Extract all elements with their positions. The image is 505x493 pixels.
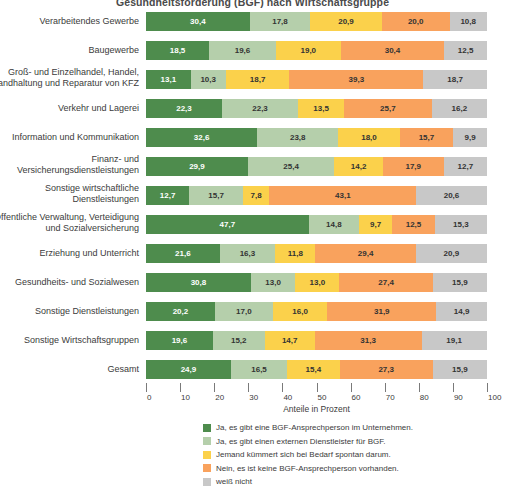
axis-tick (487, 383, 488, 392)
bar-segment: 12,5 (444, 41, 487, 60)
axis-tick (146, 383, 147, 392)
category-label: Verarbeitendes Gewerbe (0, 16, 139, 27)
category-label-line: Sonstige Dienstleistungen (0, 306, 139, 317)
category-label-line: und Sozialversicherung (0, 223, 139, 234)
category-label: Öffentliche Verwaltung, Verteidigungund … (0, 212, 139, 234)
bar-segment: 13,1 (146, 70, 191, 89)
bar-row: Gesundheits- und Sozialwesen30,813,013,0… (146, 271, 487, 300)
bar-segment: 47,7 (146, 215, 309, 234)
legend-item: Ja, es gibt einen externen Dienstleister… (203, 435, 413, 449)
legend-swatch (203, 451, 211, 459)
bar-row: Groß- und Einzelhandel, Handel,Instandha… (146, 68, 487, 97)
bar-segment: 17,9 (383, 157, 444, 176)
category-label: Groß- und Einzelhandel, Handel,Instandha… (0, 67, 139, 89)
category-label-line: Gesundheits- und Sozialwesen (0, 277, 139, 288)
category-label: Information und Kommunikation (0, 132, 139, 143)
category-label-line: Verarbeitendes Gewerbe (0, 16, 139, 27)
bar-segment: 17,0 (215, 302, 273, 321)
bar-segment: 17,8 (250, 12, 311, 31)
bar-segment: 9,7 (359, 215, 392, 234)
axis-tick (282, 383, 283, 392)
stacked-bar: 24,916,515,427,315,9 (146, 360, 487, 379)
bar-segment: 15,9 (433, 273, 487, 292)
bar-segment: 18,7 (226, 70, 290, 89)
bar-segment: 30,8 (146, 273, 251, 292)
bar-segment: 11,8 (275, 244, 315, 263)
bar-segment: 12,5 (392, 215, 435, 234)
legend-label: Jemand kümmert sich bei Bedarf spontan d… (216, 450, 391, 459)
bar-segment: 15,7 (189, 186, 243, 205)
bar-segment: 24,9 (146, 360, 231, 379)
x-axis-title: Anteile in Prozent (146, 404, 487, 414)
stacked-bar: 29,925,414,217,912,7 (146, 157, 487, 176)
bar-segment: 15,2 (213, 331, 265, 350)
category-label: Sonstige wirtschaftlicheDienstleistungen (0, 183, 139, 205)
axis-tick-label: 60 (352, 393, 361, 402)
bar-segment: 30,4 (146, 12, 250, 31)
bar-segment: 18,5 (146, 41, 209, 60)
bar-segment: 20,9 (416, 244, 487, 263)
bar-segment: 14,2 (334, 157, 382, 176)
bar-row: Sonstige wirtschaftlicheDienstleistungen… (146, 184, 487, 213)
legend-item: weiß nicht (203, 475, 413, 489)
legend-item: Jemand kümmert sich bei Bedarf spontan d… (203, 448, 413, 462)
bar-segment: 27,4 (339, 273, 432, 292)
bar-segment: 39,3 (289, 70, 423, 89)
bar-segment: 7,8 (243, 186, 270, 205)
bar-row: Sonstige Dienstleistungen20,217,016,031,… (146, 300, 487, 329)
bar-segment: 31,9 (327, 302, 436, 321)
stacked-bar: 19,615,214,731,319,1 (146, 331, 487, 350)
bar-segment: 19,6 (209, 41, 276, 60)
bar-segment: 18,0 (338, 128, 399, 147)
bar-segment: 15,7 (400, 128, 454, 147)
axis-tick-label: 30 (249, 393, 258, 402)
stacked-bar: 21,616,311,829,420,9 (146, 244, 487, 263)
legend-swatch (203, 464, 211, 472)
stacked-bar: 13,110,318,739,318,7 (146, 70, 487, 89)
bar-segment: 15,4 (287, 360, 340, 379)
category-label-line: Instandhaltung und Reparatur von KFZ (0, 78, 139, 89)
category-label-line: Sonstige Wirtschaftsgruppen (0, 335, 139, 346)
axis-tick (214, 383, 215, 392)
axis-tick-label: 50 (318, 393, 327, 402)
category-label: Finanz- undVersicherungsdienstleistungen (0, 154, 139, 176)
category-label-line: Versicherungsdienstleistungen (0, 165, 139, 176)
legend-swatch (203, 478, 211, 486)
bar-segment: 25,4 (248, 157, 335, 176)
bar-segment: 19,1 (422, 331, 487, 350)
bar-segment: 15,9 (433, 360, 487, 379)
bar-segment: 20,0 (382, 12, 450, 31)
bar-segment: 14,7 (265, 331, 315, 350)
chart-root: Gesundheitsförderung (BGF) nach Wirtscha… (0, 0, 505, 493)
axis-tick-label: 70 (386, 393, 395, 402)
stacked-bar: 12,715,77,843,120,6 (146, 186, 487, 205)
category-label-line: Verkehr und Lagerei (0, 103, 139, 114)
category-label-line: Groß- und Einzelhandel, Handel, (0, 67, 139, 78)
legend-label: Ja, es gibt einen externen Dienstleister… (216, 437, 385, 446)
bar-segment: 13,5 (298, 99, 344, 118)
axis-tick (180, 383, 181, 392)
bar-segment: 16,2 (432, 99, 487, 118)
bar-segment: 31,3 (315, 331, 422, 350)
axis-tick (317, 383, 318, 392)
category-label-line: Finanz- und (0, 154, 139, 165)
bar-segment: 29,4 (315, 244, 415, 263)
axis-tick (453, 383, 454, 392)
axis-tick-label: 80 (420, 393, 429, 402)
bar-segment: 9,9 (453, 128, 487, 147)
category-label-line: Erziehung und Unterricht (0, 248, 139, 259)
axis-tick (351, 383, 352, 392)
legend: Ja, es gibt eine BGF-Ansprechperson im U… (203, 421, 413, 489)
bar-segment: 25,7 (344, 99, 432, 118)
bar-segment: 15,3 (435, 215, 487, 234)
bar-segment: 13,0 (295, 273, 339, 292)
bar-segment: 18,7 (423, 70, 487, 89)
bar-segment: 10,8 (450, 12, 487, 31)
stacked-bar: 30,417,820,920,010,8 (146, 12, 487, 31)
category-label-line: Dienstleistungen (0, 194, 139, 205)
category-label: Erziehung und Unterricht (0, 248, 139, 259)
bar-segment: 14,8 (309, 215, 359, 234)
category-label: Gesundheits- und Sozialwesen (0, 277, 139, 288)
bar-segment: 27,3 (340, 360, 433, 379)
stacked-bar: 20,217,016,031,914,9 (146, 302, 487, 321)
